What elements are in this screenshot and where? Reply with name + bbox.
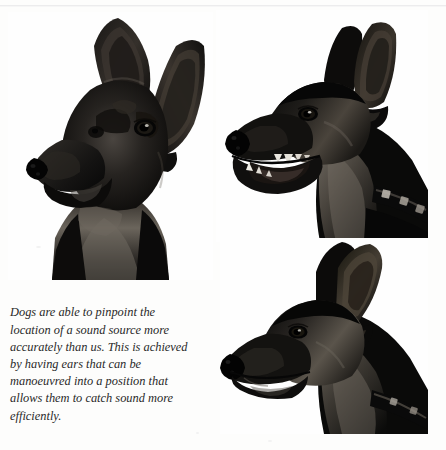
photo-dog-head-ears-back-view bbox=[220, 238, 428, 434]
scan-speckle bbox=[196, 432, 199, 434]
figure-caption: Dogs are able to pinpoint the location o… bbox=[10, 304, 190, 424]
dog-front-view-illustration bbox=[8, 12, 213, 280]
dog-side-view-illustration bbox=[216, 10, 428, 242]
scan-speckle bbox=[268, 440, 272, 442]
photo-dog-head-side-view-panting bbox=[216, 10, 428, 242]
header-rule-secondary bbox=[0, 6, 446, 7]
photo-dog-head-front-view bbox=[8, 12, 213, 280]
dog-ears-back-illustration bbox=[220, 238, 428, 434]
book-page: THE SENSE OF HEARING bbox=[0, 0, 446, 450]
